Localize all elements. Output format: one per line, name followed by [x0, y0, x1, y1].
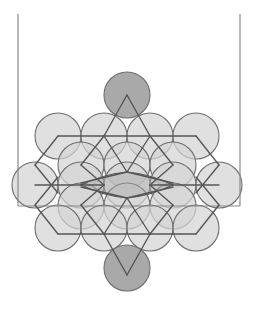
packed-circle-light [173, 205, 219, 251]
packed-circle-light [127, 205, 173, 251]
circle-packing-diagram [0, 0, 253, 309]
packed-circle-light [81, 205, 127, 251]
figure-root [0, 0, 253, 309]
packed-circle-dark [104, 245, 150, 291]
packed-circle-light [35, 205, 81, 251]
